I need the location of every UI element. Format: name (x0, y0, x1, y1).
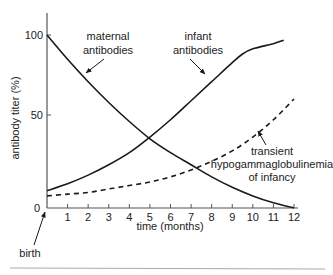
infant-label-line1: infant (185, 30, 212, 42)
y-tick-label-100: 100 (25, 29, 43, 41)
x-tick-label: 4 (126, 211, 132, 223)
x-tick-label: 3 (106, 211, 112, 223)
x-tick-label: 8 (209, 211, 215, 223)
infant-label-line2: antibodies (173, 44, 224, 56)
x-tick-label: 1 (65, 211, 71, 223)
x-tick-label: 12 (288, 211, 300, 223)
x-axis-title: time (months) (136, 220, 203, 232)
x-tick-label: 10 (247, 211, 259, 223)
maternal-label-line2: antibodies (83, 44, 134, 56)
birth-label: birth (19, 247, 40, 259)
y-axis-title: antibody titer (%) (9, 76, 21, 159)
infant-arrow-icon (190, 59, 205, 74)
transient-arrow-icon (258, 131, 266, 145)
maternal-arrow-icon (86, 59, 104, 73)
antibody-titer-chart: 100 50 0 123456789101112 time (months) a… (0, 0, 333, 275)
y-tick-label-0: 0 (34, 202, 40, 214)
maternal-label-line1: maternal (87, 30, 130, 42)
transient-label-line2: hypogammaglobulinemia (211, 158, 333, 170)
x-tick-label: 11 (268, 211, 279, 223)
x-tick-label: 9 (229, 211, 235, 223)
birth-arrow-icon (34, 212, 45, 245)
bottom-rule (10, 268, 325, 269)
y-tick-label-50: 50 (31, 109, 43, 121)
transient-label-line1: transient (251, 145, 293, 157)
transient-label-line3: of infancy (248, 171, 296, 183)
x-tick-label: 2 (85, 211, 91, 223)
